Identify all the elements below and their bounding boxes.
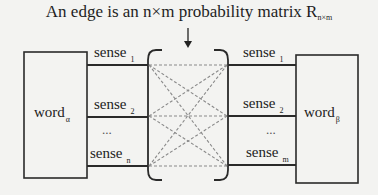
sense-subscript: 2 (280, 106, 284, 115)
left-ellipsis: ... (102, 122, 112, 138)
sense-text: sense (243, 44, 276, 60)
right-sense-1-label: sense1 (243, 44, 284, 64)
word-text: word (304, 104, 335, 120)
sense-text: sense (243, 95, 276, 111)
right-sense-m-label: sensem (246, 144, 289, 164)
word-subscript: β (336, 115, 340, 124)
sense-text: sense (94, 44, 127, 60)
probability-matrix-connections (149, 65, 227, 166)
sense-text: sense (94, 96, 127, 112)
left-sense-n-label: sensen (90, 145, 131, 165)
edge-matrix-diagram (0, 0, 378, 195)
arrow-down-icon (184, 28, 192, 48)
sense-subscript: 1 (131, 55, 135, 64)
sense-text: sense (90, 145, 123, 161)
left-sense-2-label: sense2 (94, 96, 135, 116)
word-alpha-label: wordα (34, 104, 70, 124)
diagram-title: An edge is an n×m probability matrix Rn×… (0, 2, 378, 22)
title-subscript: n×m (317, 13, 332, 22)
title-text: An edge is an n×m probability matrix R (46, 2, 318, 21)
sense-text: sense (246, 144, 279, 160)
sense-subscript: 1 (280, 55, 284, 64)
right-sense-2-label: sense2 (243, 95, 284, 115)
sense-subscript: 2 (131, 107, 135, 116)
right-ellipsis: ... (266, 122, 276, 138)
sense-subscript: m (283, 155, 289, 164)
word-beta-label: wordβ (304, 104, 340, 124)
left-sense-1-label: sense1 (94, 44, 135, 64)
sense-subscript: n (127, 156, 131, 165)
word-text: word (34, 104, 65, 120)
word-subscript: α (66, 115, 70, 124)
